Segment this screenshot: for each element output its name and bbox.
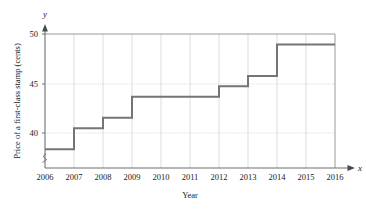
x-axis-title: Year [182, 190, 198, 200]
x-tick-label-2010: 2010 [153, 172, 170, 182]
y-axis-title: Price of a first-class stamp (cents) [12, 43, 22, 159]
y-tick-label-40: 40 [30, 128, 39, 138]
x-tick-label-2013: 2013 [240, 172, 257, 182]
x-tick-label-2011: 2011 [182, 172, 199, 182]
step-chart: 50 45 40 2006 2007 2008 2009 2010 2011 2… [0, 0, 366, 221]
y-axis-arrow [42, 24, 48, 32]
x-tick-label-2008: 2008 [95, 172, 112, 182]
x-axis-variable-letter: x [357, 163, 362, 173]
x-axis-arrow [348, 165, 356, 171]
x-tick-label-2014: 2014 [269, 172, 287, 182]
x-tick-label-2006: 2006 [37, 172, 54, 182]
y-tick-label-50: 50 [30, 29, 39, 39]
chart-figure: 50 45 40 2006 2007 2008 2009 2010 2011 2… [0, 0, 366, 221]
x-tick-label-2016: 2016 [327, 172, 344, 182]
x-tick-label-2007: 2007 [66, 172, 83, 182]
x-tick-label-2009: 2009 [124, 172, 141, 182]
x-tick-label-2012: 2012 [211, 172, 228, 182]
y-axis-variable-letter: y [42, 9, 47, 19]
y-tick-label-45: 45 [30, 79, 39, 89]
x-tick-label-2015: 2015 [298, 172, 315, 182]
